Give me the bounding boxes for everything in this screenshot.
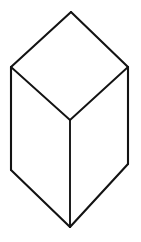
prism-line-drawing: Prism (0, 0, 141, 242)
figure-canvas: Prism Line drawing of a rectangular pris… (0, 0, 141, 242)
